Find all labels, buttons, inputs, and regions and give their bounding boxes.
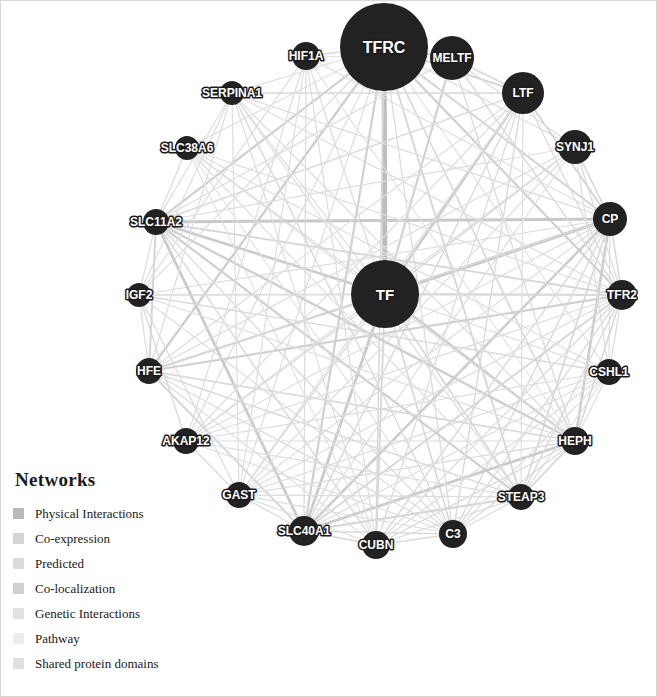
node-label: AKAP12 (162, 434, 210, 448)
node-label: SLC11A2 (130, 215, 182, 229)
node-label: TFRC (363, 39, 406, 56)
network-node-cp[interactable]: CP (593, 202, 627, 236)
legend-swatch-icon (13, 633, 24, 644)
network-edge[interactable] (239, 56, 306, 495)
legend-item-label: Pathway (35, 631, 80, 647)
legend-item-label: Co-expression (35, 531, 110, 547)
network-node-tf[interactable]: TF (351, 260, 419, 328)
network-node-hif1a[interactable]: HIF1A (289, 42, 324, 70)
legend-item[interactable]: Genetic Interactions (13, 601, 243, 626)
network-node-slc38a6[interactable]: SLC38A6 (161, 136, 214, 160)
network-node-synj1[interactable]: SYNJ1 (556, 130, 594, 164)
legend-item[interactable]: Pathway (13, 626, 243, 651)
node-label: STEAP3 (498, 490, 545, 504)
legend-item[interactable]: Physical Interactions (13, 501, 243, 526)
node-label: HIF1A (289, 49, 324, 63)
node-label: LTF (512, 86, 533, 100)
network-edge[interactable] (304, 441, 575, 531)
network-edge[interactable] (149, 93, 523, 371)
network-node-cshl1[interactable]: CSHL1 (589, 359, 629, 385)
network-node-hfe[interactable]: HFE (136, 358, 162, 384)
networks-legend: Networks Physical InteractionsCo-express… (13, 469, 243, 676)
network-edge[interactable] (139, 295, 575, 441)
network-node-c3[interactable]: C3 (439, 520, 467, 548)
node-label: TFR2 (607, 288, 637, 302)
legend-item-label: Predicted (35, 556, 84, 572)
node-label: MELTF (432, 51, 471, 65)
network-edge[interactable] (186, 56, 306, 441)
legend-swatch-icon (13, 558, 24, 569)
network-edge[interactable] (384, 47, 609, 372)
node-label: CUBN (359, 538, 394, 552)
node-label: CP (602, 212, 619, 226)
legend-swatch-icon (13, 583, 24, 594)
network-node-meltf[interactable]: MELTF (430, 36, 474, 80)
legend-item-label: Genetic Interactions (35, 606, 140, 622)
network-edge[interactable] (139, 295, 239, 495)
legend-swatch-icon (13, 658, 24, 669)
legend-item-label: Physical Interactions (35, 506, 144, 522)
node-label: SERPINA1 (202, 86, 262, 100)
network-node-igf2[interactable]: IGF2 (126, 283, 153, 307)
network-node-tfr2[interactable]: TFR2 (607, 280, 637, 310)
legend-title: Networks (15, 469, 243, 491)
network-edge[interactable] (156, 219, 610, 222)
node-label: TF (376, 286, 394, 303)
legend-rows: Physical InteractionsCo-expressionPredic… (13, 501, 243, 676)
legend-swatch-icon (13, 533, 24, 544)
node-label: SYNJ1 (556, 140, 594, 154)
network-edge[interactable] (523, 93, 622, 295)
node-label: CSHL1 (589, 365, 629, 379)
network-node-ltf[interactable]: LTF (502, 72, 544, 114)
node-label: IGF2 (126, 288, 153, 302)
legend-item[interactable]: Co-expression (13, 526, 243, 551)
legend-item[interactable]: Predicted (13, 551, 243, 576)
legend-swatch-icon (13, 508, 24, 519)
legend-item-label: Shared protein domains (35, 656, 158, 672)
legend-swatch-icon (13, 608, 24, 619)
network-visualization-page: TFTFRCHIF1AMELTFLTFSERPINA1SYNJ1SLC38A6S… (0, 0, 657, 697)
network-node-serpina1[interactable]: SERPINA1 (202, 81, 262, 105)
node-label: SLC38A6 (161, 141, 214, 155)
node-label: HFE (137, 364, 161, 378)
node-label: HEPH (558, 434, 591, 448)
legend-item[interactable]: Shared protein domains (13, 651, 243, 676)
legend-item[interactable]: Co-localization (13, 576, 243, 601)
legend-item-label: Co-localization (35, 581, 115, 597)
node-label: C3 (445, 527, 461, 541)
node-label: SLC40A1 (278, 524, 331, 538)
network-node-tfrc[interactable]: TFRC (340, 3, 428, 91)
